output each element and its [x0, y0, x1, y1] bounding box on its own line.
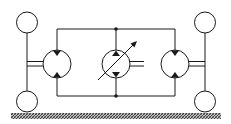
junction-dot — [114, 27, 118, 31]
left-axle-assembly — [17, 12, 44, 112]
wheel-left-bottom — [17, 91, 38, 112]
wheel-right-top — [195, 12, 216, 33]
right-axle-assembly — [189, 12, 216, 112]
pump-center — [98, 43, 144, 80]
wheel-right-bottom — [195, 91, 216, 112]
ground-hatch — [11, 113, 221, 119]
wheel-left-top — [17, 12, 38, 33]
junction-dot — [114, 94, 118, 98]
hydrostatic-drive-diagram: Hydrostatic drive circuit — [0, 0, 231, 124]
